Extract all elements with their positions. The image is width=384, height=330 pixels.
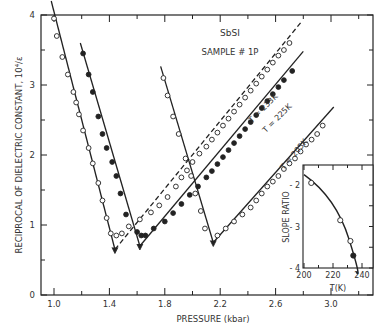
open-data-point — [90, 161, 95, 166]
open-data-point — [119, 231, 124, 236]
filled-data-point — [151, 226, 156, 231]
x-tick-label: 2.6 — [269, 299, 283, 309]
filled-data-point — [135, 230, 140, 235]
filled-data-point — [232, 141, 237, 146]
open-data-point — [198, 209, 203, 214]
inset-x-label: T(K) — [329, 284, 346, 293]
filled-data-point — [221, 155, 226, 160]
open-data-point — [265, 67, 270, 72]
open-data-point — [221, 123, 226, 128]
data-series — [51, 1, 334, 254]
open-data-point — [287, 41, 292, 46]
open-data-point — [265, 184, 270, 189]
filled-data-point — [162, 219, 167, 224]
open-data-point — [161, 76, 166, 81]
open-data-point — [223, 226, 228, 231]
open-data-point — [282, 48, 287, 53]
open-data-point — [270, 60, 275, 65]
open-data-point — [185, 168, 190, 173]
open-data-point — [74, 100, 79, 105]
filled-data-point — [171, 211, 176, 216]
y-axis-label: RECIPROCAL OF DIELECTRIC CONSTANT, 10⁴/ε — [14, 56, 24, 253]
filled-data-point — [215, 162, 220, 167]
open-data-point — [226, 116, 231, 121]
filled-data-point — [243, 127, 248, 132]
filled-data-point — [100, 132, 105, 137]
y-tick-label: 0 — [30, 290, 35, 300]
open-data-point — [176, 132, 181, 137]
open-data-point — [60, 55, 65, 60]
open-data-point — [65, 72, 70, 77]
open-data-point — [165, 93, 170, 98]
open-data-point — [86, 146, 91, 151]
filled-data-point — [276, 85, 281, 90]
open-data-point — [203, 226, 208, 231]
open-data-point — [96, 181, 101, 186]
chart-title: SbSI — [220, 28, 240, 38]
filled-data-point — [114, 174, 119, 179]
open-data-point — [114, 233, 119, 238]
open-data-point — [204, 144, 209, 149]
inset-open-point — [348, 238, 353, 243]
inset-y-tick-label: - 2 — [289, 181, 300, 190]
open-data-point — [77, 112, 82, 117]
open-data-point — [276, 53, 281, 58]
open-data-point — [137, 217, 142, 222]
main-chart: 1.01.41.82.22.63.001234 200220240- 2- 3-… — [0, 0, 384, 330]
y-tick-label: 1 — [30, 220, 35, 230]
open-data-point — [183, 156, 188, 161]
open-data-point — [320, 123, 325, 128]
x-tick-label: 2.2 — [213, 299, 227, 309]
transition-marker-icon — [137, 244, 143, 250]
open-data-point — [104, 216, 109, 221]
filled-data-point — [86, 72, 91, 77]
open-data-point — [215, 130, 220, 135]
open-data-point — [215, 233, 220, 238]
open-data-point — [276, 174, 281, 179]
fit-line-descending — [161, 66, 214, 242]
chart-figure: 1.01.41.82.22.63.001234 200220240- 2- 3-… — [0, 0, 384, 330]
filled-data-point — [143, 233, 148, 238]
open-data-point — [126, 224, 131, 229]
open-data-point — [259, 191, 264, 196]
x-tick-label: 3.0 — [324, 299, 338, 309]
open-data-point — [309, 137, 314, 142]
filled-data-point — [226, 148, 231, 153]
y-tick-label: 4 — [30, 10, 35, 20]
open-data-point — [237, 102, 242, 107]
open-data-point — [71, 90, 76, 95]
open-data-point — [315, 132, 320, 137]
transition-marker-icon — [210, 241, 216, 247]
filled-data-point — [179, 202, 184, 207]
open-data-point — [197, 151, 202, 156]
open-data-point — [54, 34, 59, 39]
transition-marker-icon — [112, 248, 118, 254]
inset-y-label: SLOPE RATIO — [282, 191, 291, 243]
inset-filled-point — [351, 253, 356, 258]
fit-line-descending — [51, 1, 115, 250]
inset-y-tick-label: - 3 — [289, 223, 300, 232]
open-data-point — [190, 160, 195, 165]
filled-data-point — [104, 146, 109, 151]
open-data-point — [270, 179, 275, 184]
open-data-point — [100, 198, 105, 203]
open-data-point — [254, 198, 259, 203]
filled-data-point — [90, 90, 95, 95]
filled-data-point — [124, 212, 129, 217]
filled-data-point — [204, 175, 209, 180]
open-data-point — [189, 174, 194, 179]
open-data-point — [240, 212, 245, 217]
filled-data-point — [96, 114, 101, 119]
open-data-point — [254, 81, 259, 86]
x-tick-label: 1.4 — [103, 299, 117, 309]
open-data-point — [179, 175, 184, 180]
open-data-point — [248, 205, 253, 210]
sample-label: SAMPLE # 1P — [202, 47, 259, 57]
open-data-point — [81, 128, 86, 133]
open-data-point — [248, 88, 253, 93]
inset-y-tick-label: - 4 — [289, 264, 300, 273]
inset-chart: 200220240- 2- 3- 4 — [289, 165, 373, 280]
filled-data-point — [237, 134, 242, 139]
filled-data-point — [81, 51, 86, 56]
open-data-point — [232, 219, 237, 224]
